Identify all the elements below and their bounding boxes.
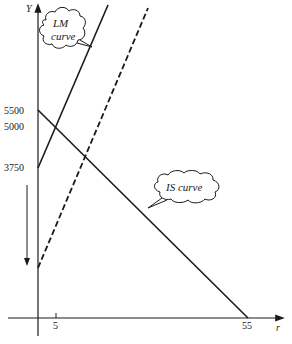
lm-label-line1: LM	[52, 17, 69, 29]
lm-label-line2: curve	[51, 30, 76, 42]
is-lm-diagram: Y r 5500 5000 3750 5 55 LM curve IS curv…	[0, 0, 292, 344]
y-tick-5000: 5000	[4, 121, 24, 132]
lm-callout-pointer	[80, 40, 92, 47]
is-curve	[38, 110, 248, 318]
x-tick-5: 5	[53, 320, 58, 331]
is-curve-callout: IS curve	[148, 170, 219, 208]
y-tick-5500: 5500	[4, 105, 24, 116]
lm-curve-callout: LM curve	[40, 7, 93, 48]
x-tick-55: 55	[242, 320, 252, 331]
lm-callout-pointer	[77, 43, 92, 47]
x-axis-label: r	[276, 322, 280, 333]
is-label: IS curve	[165, 181, 202, 193]
y-axis-label: Y	[26, 3, 33, 14]
y-tick-3750: 3750	[4, 162, 24, 173]
